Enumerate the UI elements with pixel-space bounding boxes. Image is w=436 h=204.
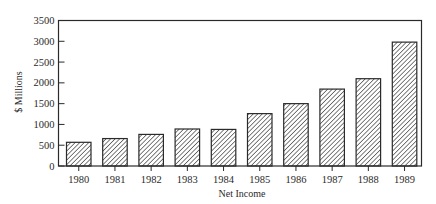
x-tick-label: 1989 bbox=[394, 174, 415, 185]
bar-1988 bbox=[356, 79, 381, 166]
y-tick-label: 2000 bbox=[34, 77, 55, 88]
bar-1987 bbox=[320, 89, 345, 166]
x-tick-label: 1980 bbox=[68, 174, 89, 185]
y-tick-label: 3500 bbox=[34, 15, 55, 26]
bar-1986 bbox=[284, 104, 309, 166]
x-tick-label: 1984 bbox=[213, 174, 235, 185]
bar-1981 bbox=[103, 139, 128, 166]
x-tick-label: 1987 bbox=[322, 174, 343, 185]
y-tick-label: 3000 bbox=[34, 36, 55, 47]
bar-1982 bbox=[139, 134, 164, 166]
bar-1984 bbox=[211, 129, 236, 166]
bar-1983 bbox=[175, 129, 200, 166]
y-tick-label: 1000 bbox=[34, 119, 55, 130]
bars bbox=[67, 42, 417, 166]
x-tick-label: 1985 bbox=[249, 174, 270, 185]
y-tick-label: 1500 bbox=[34, 98, 55, 109]
y-axis-ticks: 0500100015002000250030003500 bbox=[34, 15, 65, 172]
bar-chart: 0500100015002000250030003500 19801981198… bbox=[0, 0, 436, 204]
y-axis-label: $ Millions bbox=[13, 71, 24, 113]
x-axis-ticks: 1980198119821983198419851986198719881989 bbox=[68, 166, 415, 185]
x-tick-label: 1986 bbox=[285, 174, 306, 185]
y-tick-label: 0 bbox=[49, 161, 54, 172]
x-axis-label: Net Income bbox=[219, 188, 266, 199]
x-tick-label: 1983 bbox=[177, 174, 198, 185]
bar-1980 bbox=[67, 142, 92, 166]
y-tick-label: 2500 bbox=[34, 57, 55, 68]
x-tick-label: 1981 bbox=[104, 174, 125, 185]
x-tick-label: 1988 bbox=[358, 174, 379, 185]
y-tick-label: 500 bbox=[39, 140, 55, 151]
bar-1985 bbox=[248, 114, 273, 166]
x-tick-label: 1982 bbox=[141, 174, 162, 185]
bar-1989 bbox=[392, 42, 417, 166]
